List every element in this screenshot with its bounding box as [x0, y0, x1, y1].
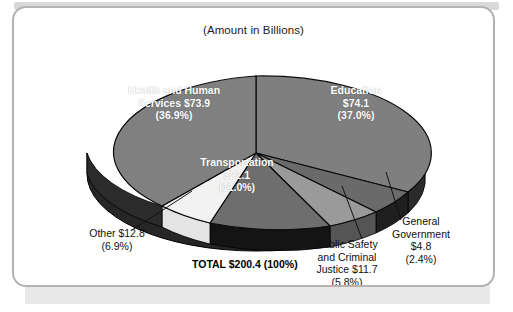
callout-label-general-gov-line4: (2.4%) [380, 253, 462, 266]
total-label: TOTAL $200.4 (100%) [192, 258, 298, 270]
slice-label-transportation-line2: $22.1 [181, 169, 293, 182]
callout-label-general-gov-line2: Government [380, 228, 462, 241]
callout-label-general-gov-line1: General [380, 215, 462, 228]
callout-label-public-safety-line3: Justice $11.7 [306, 263, 388, 276]
slice-label-education-line1: Education [301, 84, 411, 97]
callout-label-public-safety-line2: and Criminal [306, 251, 388, 264]
slice-label-health-human-services: Health and Human Services $73.9 (36.9%) [107, 84, 241, 122]
callout-label-public-safety-line4: (5.8%) [306, 276, 388, 288]
slice-label-hhs-line1: Health and Human [107, 84, 241, 97]
slice-label-transportation-line3: (11.0%) [181, 181, 293, 194]
callout-label-other-line1: Other $12.8 [62, 227, 172, 240]
callout-label-general-gov-line3: $4.8 [380, 240, 462, 253]
callout-label-other-line2: (6.9%) [62, 240, 172, 253]
callout-label-public-safety: Public Safety and Criminal Justice $11.7… [306, 238, 388, 287]
slice-label-education: Education $74.1 (37.0%) [301, 84, 411, 122]
slice-label-education-line2: $74.1 [301, 97, 411, 110]
callout-label-other: Other $12.8 (6.9%) [62, 227, 172, 252]
chart-figure: (Amount in Billions) [0, 0, 513, 312]
slice-label-transportation: Transportation $22.1 (11.0%) [181, 156, 293, 194]
slice-label-hhs-line2: Services $73.9 [107, 97, 241, 110]
chart-card: (Amount in Billions) [12, 6, 495, 287]
slice-label-transportation-line1: Transportation [181, 156, 293, 169]
callout-label-general-government: General Government $4.8 (2.4%) [380, 215, 462, 265]
callout-label-public-safety-line1: Public Safety [306, 238, 388, 251]
slice-label-education-line3: (37.0%) [301, 109, 411, 122]
slice-label-hhs-line3: (36.9%) [107, 109, 241, 122]
